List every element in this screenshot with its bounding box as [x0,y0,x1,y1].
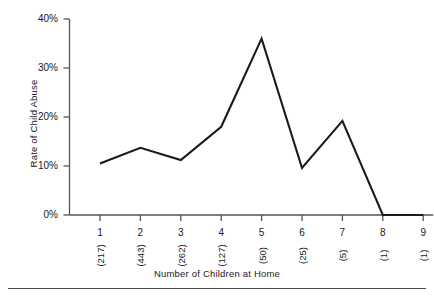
data-series-line [100,39,423,215]
x-axis-title: Number of Children at Home [0,268,434,279]
chart-figure: Rate of Child Abuse 0%10%20%30%40% 1(217… [0,0,434,304]
axes [64,19,434,221]
bottom-divider [8,288,426,289]
